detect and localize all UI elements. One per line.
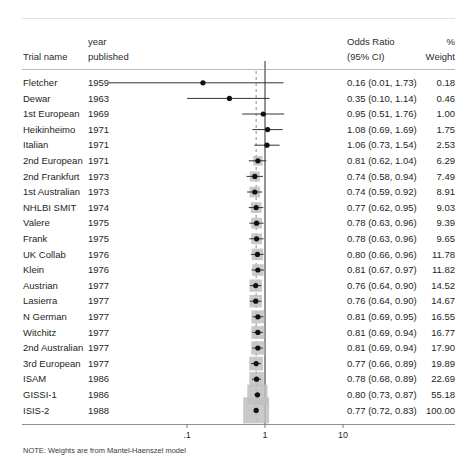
table-row: ISIS-219880.77 (0.72, 0.83)100.00 — [0, 403, 474, 418]
year-cell: 1975 — [88, 215, 109, 230]
table-row: Fletcher19590.16 (0.01, 1.73)0.18 — [0, 75, 474, 90]
trial-name-cell: 2nd Frankfurt — [23, 169, 80, 184]
weight-cell: 6.29 — [414, 153, 455, 168]
table-row: GISSI-119860.80 (0.73, 0.87)55.18 — [0, 387, 474, 402]
table-row: Witchitz19770.81 (0.69, 0.94)16.77 — [0, 325, 474, 340]
weight-cell: 7.49 — [414, 169, 455, 184]
table-row: N German19770.81 (0.69, 0.95)16.55 — [0, 309, 474, 324]
odds-ratio-cell: 0.78 (0.63, 0.96) — [347, 231, 417, 246]
trial-name-cell: 1st Australian — [23, 184, 80, 199]
trial-name-cell: Valere — [23, 215, 50, 230]
year-cell: 1977 — [88, 356, 109, 371]
weight-cell: 17.90 — [414, 340, 455, 355]
trial-name-cell: Frank — [23, 231, 47, 246]
table-row: Italian19711.06 (0.73, 1.54)2.53 — [0, 137, 474, 152]
odds-ratio-cell: 0.81 (0.69, 0.95) — [347, 309, 417, 324]
trial-name-cell: GISSI-1 — [23, 387, 57, 402]
weight-cell: 14.52 — [414, 278, 455, 293]
trial-name-cell: Heikinheimo — [23, 122, 75, 137]
weight-cell: 11.78 — [414, 247, 455, 262]
column-header-weight: Weight — [414, 51, 455, 63]
weight-cell: 16.77 — [414, 325, 455, 340]
weight-cell: 9.65 — [414, 231, 455, 246]
odds-ratio-cell: 0.80 (0.73, 0.87) — [347, 387, 417, 402]
trial-name-cell: Italian — [23, 137, 48, 152]
trial-name-cell: Klein — [23, 262, 44, 277]
year-cell: 1976 — [88, 247, 109, 262]
column-header-or-line1: Odds Ratio — [347, 36, 395, 48]
table-row: Heikinheimo19711.08 (0.69, 1.69)1.75 — [0, 122, 474, 137]
odds-ratio-cell: 0.78 (0.63, 0.96) — [347, 215, 417, 230]
odds-ratio-cell: 0.78 (0.68, 0.89) — [347, 371, 417, 386]
table-row: Klein19760.81 (0.67, 0.97)11.82 — [0, 262, 474, 277]
trial-name-cell: ISAM — [23, 371, 46, 386]
year-cell: 1959 — [88, 75, 109, 90]
year-cell: 1976 — [88, 262, 109, 277]
column-header-or-line2: (95% CI) — [347, 51, 384, 63]
weight-cell: 1.00 — [414, 106, 455, 121]
table-row: UK Collab19760.80 (0.66, 0.96)11.78 — [0, 247, 474, 262]
odds-ratio-cell: 0.80 (0.66, 0.96) — [347, 247, 417, 262]
table-row: 2nd Frankfurt19730.74 (0.58, 0.94)7.49 — [0, 169, 474, 184]
year-cell: 1986 — [88, 371, 109, 386]
odds-ratio-cell: 0.74 (0.58, 0.94) — [347, 169, 417, 184]
weight-cell: 0.18 — [414, 75, 455, 90]
year-cell: 1973 — [88, 169, 109, 184]
table-row: Austrian19770.76 (0.64, 0.90)14.52 — [0, 278, 474, 293]
weight-cell: 9.03 — [414, 200, 455, 215]
year-cell: 1971 — [88, 153, 109, 168]
odds-ratio-cell: 0.81 (0.62, 1.04) — [347, 153, 417, 168]
weight-cell: 14.67 — [414, 293, 455, 308]
weight-cell: 1.75 — [414, 122, 455, 137]
trial-name-cell: 2nd Australian — [23, 340, 83, 355]
odds-ratio-cell: 0.74 (0.59, 0.92) — [347, 184, 417, 199]
weight-cell: 100.00 — [414, 403, 455, 418]
odds-ratio-cell: 0.81 (0.69, 0.94) — [347, 325, 417, 340]
odds-ratio-cell: 0.16 (0.01, 1.73) — [347, 75, 417, 90]
weight-cell: 16.55 — [414, 309, 455, 324]
column-header-year-line2: published — [88, 51, 129, 63]
table-row: NHLBI SMIT19740.77 (0.62, 0.95)9.03 — [0, 200, 474, 215]
table-row: Valere19750.78 (0.63, 0.96)9.39 — [0, 215, 474, 230]
trial-name-cell: Lasierra — [23, 293, 57, 308]
table-row: 1st European19690.95 (0.51, 1.76)1.00 — [0, 106, 474, 121]
top-rule — [22, 18, 455, 19]
column-header-year-line1: year — [88, 36, 106, 48]
year-cell: 1988 — [88, 403, 109, 418]
axis-tick-label: 10 — [323, 430, 363, 441]
odds-ratio-cell: 0.77 (0.66, 0.89) — [347, 356, 417, 371]
weight-cell: 0.46 — [414, 91, 455, 106]
table-row: 2nd Australian19770.81 (0.69, 0.94)17.90 — [0, 340, 474, 355]
column-header-trial-name: Trial name — [23, 51, 68, 63]
axis-tick-label: .1 — [167, 430, 207, 441]
odds-ratio-cell: 0.35 (0.10, 1.14) — [347, 91, 417, 106]
odds-ratio-cell: 0.81 (0.67, 0.97) — [347, 262, 417, 277]
trial-name-cell: UK Collab — [23, 247, 66, 262]
forest-plot-figure: Trial name year published Odds Ratio (95… — [0, 0, 474, 468]
year-cell: 1974 — [88, 200, 109, 215]
trial-name-cell: 1st European — [23, 106, 80, 121]
weight-cell: 9.39 — [414, 215, 455, 230]
table-row: Frank19750.78 (0.63, 0.96)9.65 — [0, 231, 474, 246]
trial-name-cell: 2nd European — [23, 153, 83, 168]
year-cell: 1971 — [88, 122, 109, 137]
year-cell: 1969 — [88, 106, 109, 121]
table-row: 3rd European19770.77 (0.66, 0.89)19.89 — [0, 356, 474, 371]
trial-name-cell: Witchitz — [23, 325, 56, 340]
weight-cell: 19.89 — [414, 356, 455, 371]
weight-cell: 22.69 — [414, 371, 455, 386]
year-cell: 1977 — [88, 278, 109, 293]
table-row: 1st Australian19730.74 (0.59, 0.92)8.91 — [0, 184, 474, 199]
axis-tick-label: 1 — [245, 430, 285, 441]
trial-name-cell: Fletcher — [23, 75, 57, 90]
year-cell: 1975 — [88, 231, 109, 246]
weight-cell: 55.18 — [414, 387, 455, 402]
header-rule — [22, 69, 455, 70]
column-header-percent: % — [438, 36, 455, 48]
year-cell: 1977 — [88, 309, 109, 324]
table-row: Lasierra19770.76 (0.64, 0.90)14.67 — [0, 293, 474, 308]
table-row: 2nd European19710.81 (0.62, 1.04)6.29 — [0, 153, 474, 168]
weight-cell: 11.82 — [414, 262, 455, 277]
odds-ratio-cell: 0.81 (0.69, 0.94) — [347, 340, 417, 355]
weight-cell: 8.91 — [414, 184, 455, 199]
